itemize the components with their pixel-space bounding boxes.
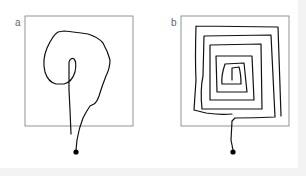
panel-b-start-dot [230, 149, 235, 154]
figure-canvas: a b [0, 0, 298, 168]
panel-b-path [194, 26, 281, 150]
panel-a-path [44, 31, 110, 150]
panel-b [181, 16, 289, 155]
panel-a-start-dot [73, 149, 78, 154]
figure-drawing [0, 0, 306, 176]
panel-a [25, 16, 133, 155]
